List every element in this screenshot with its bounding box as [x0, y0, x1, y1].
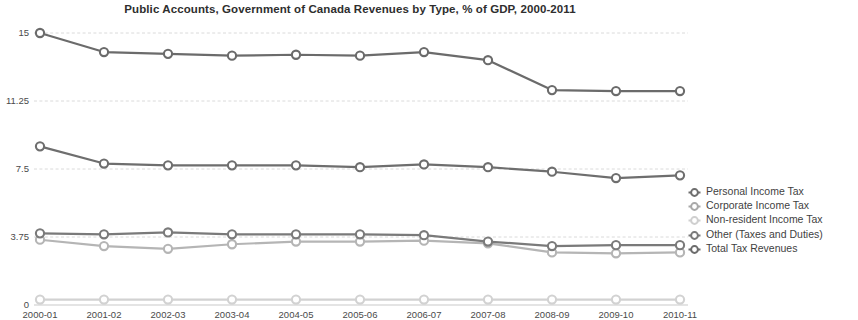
x-axis-tick-labels: 2000-012001-022002-032003-042004-052005-…: [23, 309, 698, 320]
data-point-marker: [356, 230, 364, 238]
legend-item[interactable]: Total Tax Revenues: [688, 241, 858, 255]
data-point-marker: [36, 295, 44, 303]
x-axis-tick-label: 2007-08: [471, 309, 506, 320]
data-point-marker: [36, 142, 44, 150]
data-point-marker: [228, 52, 236, 60]
chart-container: Public Accounts, Government of Canada Re…: [0, 0, 858, 320]
data-point-marker: [420, 295, 428, 303]
data-point-marker: [612, 87, 620, 95]
data-point-marker: [228, 161, 236, 169]
data-point-marker: [36, 229, 44, 237]
line-chart-plot: 03.757.511.2515 2000-012001-022002-03200…: [0, 0, 700, 320]
data-series: [36, 29, 684, 95]
data-point-marker: [484, 295, 492, 303]
x-axis-tick-label: 2001-02: [87, 309, 122, 320]
data-point-marker: [484, 163, 492, 171]
data-point-marker: [420, 231, 428, 239]
data-point-marker: [100, 295, 108, 303]
data-point-marker: [548, 86, 556, 94]
data-point-marker: [676, 171, 684, 179]
legend-marker-icon: [688, 185, 701, 198]
data-point-marker: [676, 87, 684, 95]
x-axis-tick-label: 2000-01: [23, 309, 58, 320]
data-point-marker: [292, 51, 300, 59]
data-point-marker: [164, 245, 172, 253]
legend-marker-icon: [688, 213, 701, 226]
data-point-marker: [548, 295, 556, 303]
y-axis-tick-label: 3.75: [11, 231, 30, 242]
legend-item-label: Corporate Income Tax: [706, 199, 809, 212]
data-point-marker: [100, 230, 108, 238]
data-point-marker: [100, 159, 108, 167]
legend-item-label: Non-resident Income Tax: [706, 213, 823, 226]
x-axis-tick-label: 2003-04: [215, 309, 250, 320]
data-point-marker: [356, 52, 364, 60]
legend-marker-icon: [688, 199, 701, 212]
data-point-marker: [228, 230, 236, 238]
chart-legend: Personal Income TaxCorporate Income TaxN…: [688, 184, 858, 255]
legend-item-label: Other (Taxes and Duties): [706, 228, 823, 241]
data-point-marker: [484, 237, 492, 245]
data-series: [36, 142, 684, 182]
data-point-marker: [292, 295, 300, 303]
y-axis-tick-label: 11.25: [6, 95, 29, 106]
x-axis-tick-label: 2009-10: [599, 309, 634, 320]
x-axis-tick-label: 2002-03: [151, 309, 186, 320]
x-axis-tick-label: 2004-05: [279, 309, 314, 320]
data-point-marker: [612, 174, 620, 182]
legend-item-label: Total Tax Revenues: [706, 242, 797, 255]
data-point-marker: [292, 161, 300, 169]
x-axis-tick-label: 2010-11: [663, 309, 697, 320]
y-axis-tick-label: 15: [18, 27, 29, 38]
legend-item[interactable]: Corporate Income Tax: [688, 198, 858, 212]
legend-marker-icon: [688, 228, 701, 241]
data-point-marker: [484, 56, 492, 64]
legend-item[interactable]: Personal Income Tax: [688, 184, 858, 198]
data-point-marker: [612, 249, 620, 257]
data-point-marker: [676, 295, 684, 303]
data-point-marker: [100, 48, 108, 56]
data-point-marker: [164, 228, 172, 236]
data-point-marker: [548, 242, 556, 250]
data-point-marker: [612, 241, 620, 249]
data-point-marker: [100, 242, 108, 250]
data-series-layer: [36, 29, 684, 304]
data-point-marker: [36, 29, 44, 37]
data-point-marker: [612, 295, 620, 303]
data-point-marker: [228, 240, 236, 248]
legend-item[interactable]: Non-resident Income Tax: [688, 213, 858, 227]
data-point-marker: [228, 295, 236, 303]
legend-item[interactable]: Other (Taxes and Duties): [688, 227, 858, 241]
data-series: [36, 295, 684, 303]
data-point-marker: [676, 241, 684, 249]
data-point-marker: [356, 295, 364, 303]
data-point-marker: [420, 160, 428, 168]
x-axis-tick-label: 2008-09: [535, 309, 570, 320]
series-line: [40, 33, 680, 91]
y-axis-tick-labels: 03.757.511.2515: [6, 27, 29, 310]
data-point-marker: [164, 50, 172, 58]
legend-marker-icon: [688, 242, 701, 255]
y-axis-tick-label: 7.5: [16, 163, 29, 174]
legend-item-label: Personal Income Tax: [706, 185, 804, 198]
x-axis-tick-label: 2005-06: [343, 309, 378, 320]
data-point-marker: [292, 230, 300, 238]
data-point-marker: [164, 295, 172, 303]
data-point-marker: [420, 48, 428, 56]
x-axis-tick-label: 2006-07: [407, 309, 442, 320]
data-point-marker: [548, 168, 556, 176]
data-point-marker: [164, 161, 172, 169]
data-point-marker: [356, 163, 364, 171]
